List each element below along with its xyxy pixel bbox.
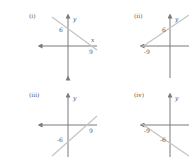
x-intercept-label: 9 xyxy=(89,127,93,134)
x-intercept-label: 9 xyxy=(89,48,93,55)
y-intercept-label: -6 xyxy=(160,136,166,143)
x-axis-label: x xyxy=(91,36,95,43)
y-intercept-label: -6 xyxy=(57,136,63,143)
y-axis-label: y xyxy=(174,94,179,102)
panel-label: (iii) xyxy=(29,91,39,98)
panel-label: (iv) xyxy=(134,91,144,98)
diagram-canvas: (i) y x 6 9 (ii) y 6 -9 (iii) y -6 9 (iv… xyxy=(0,0,189,159)
y-axis-label: y xyxy=(174,15,179,23)
y-axis-label: y xyxy=(72,15,77,23)
panel-i: (i) y x 6 9 xyxy=(29,12,97,78)
y-axis-label: y xyxy=(72,94,77,102)
x-intercept-label: -9 xyxy=(144,48,150,55)
y-intercept-label: 6 xyxy=(59,26,63,33)
panel-label: (ii) xyxy=(134,12,143,19)
panel-ii: (ii) y 6 -9 xyxy=(134,12,189,78)
y-intercept-label: 6 xyxy=(162,26,166,33)
panel-label: (i) xyxy=(29,12,36,19)
panel-iii: (iii) y -6 9 xyxy=(29,91,97,157)
panel-iv: (iv) y -6 -9 xyxy=(134,91,189,157)
x-intercept-label: -9 xyxy=(144,127,150,134)
